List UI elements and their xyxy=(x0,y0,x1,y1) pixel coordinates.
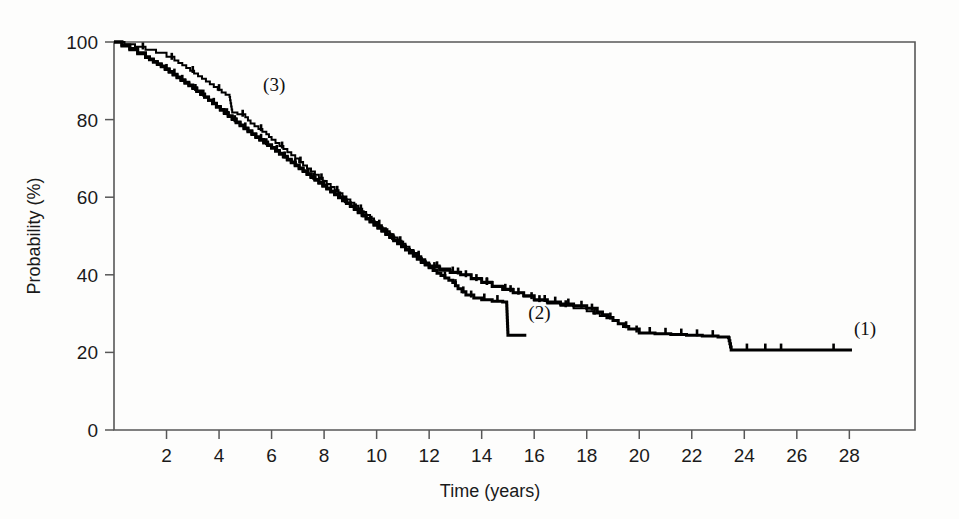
x-tick-label: 8 xyxy=(319,445,330,466)
y-tick-label: 20 xyxy=(77,342,98,363)
km-curve-1 xyxy=(114,42,852,350)
y-axis-title: Probability (%) xyxy=(24,177,44,294)
y-tick-label: 100 xyxy=(66,32,98,53)
x-tick-label: 10 xyxy=(366,445,387,466)
x-tick-label: 22 xyxy=(681,445,702,466)
x-tick-label: 6 xyxy=(266,445,277,466)
x-tick-label: 4 xyxy=(214,445,225,466)
x-tick-label: 12 xyxy=(419,445,440,466)
km-curves xyxy=(114,42,852,350)
x-tick-label: 20 xyxy=(629,445,650,466)
y-axis-tick-labels: 020406080100 xyxy=(66,32,98,441)
y-tick-label: 0 xyxy=(87,420,98,441)
curve-label-1: (1) xyxy=(854,318,876,340)
chart-page: 246810121416182022242628 020406080100 (1… xyxy=(0,0,959,519)
censoring-marks xyxy=(143,42,834,350)
y-axis-ticks xyxy=(105,42,114,430)
plot-frame xyxy=(114,42,915,430)
x-axis-ticks xyxy=(167,430,850,439)
survival-curve-chart: 246810121416182022242628 020406080100 (1… xyxy=(0,0,959,519)
curve-label-3: (3) xyxy=(263,74,285,96)
x-axis-tick-labels: 246810121416182022242628 xyxy=(161,445,860,466)
x-tick-label: 26 xyxy=(786,445,807,466)
x-tick-label: 18 xyxy=(576,445,597,466)
x-tick-label: 24 xyxy=(734,445,756,466)
x-tick-label: 14 xyxy=(471,445,493,466)
x-tick-label: 2 xyxy=(161,445,172,466)
y-tick-label: 80 xyxy=(77,110,98,131)
y-tick-label: 60 xyxy=(77,187,98,208)
x-axis-title: Time (years) xyxy=(440,481,540,501)
y-tick-label: 40 xyxy=(77,265,98,286)
curve-label-2: (2) xyxy=(528,302,550,324)
x-tick-label: 28 xyxy=(839,445,860,466)
x-tick-label: 16 xyxy=(524,445,545,466)
